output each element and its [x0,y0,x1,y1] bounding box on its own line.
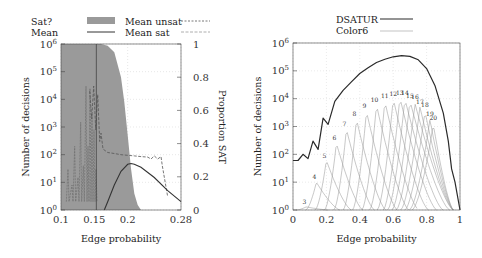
peak-label: 3 [302,198,306,205]
y-tick-label: 100 [272,204,289,216]
right-legend: DSATURColor6 [336,14,413,36]
peak-label: 7 [343,120,347,127]
right-chart: 3456789101112131415161718192010010110210… [252,14,463,244]
peak-label: 4 [312,173,316,180]
peak-label: 8 [353,110,357,117]
legend-swatch [87,17,115,24]
left-legend: Sat?MeanMean unsatMean sat [31,16,210,38]
y-right-tick-label: 0.2 [193,171,209,182]
color6-curve [296,207,328,210]
peak-label: 20 [429,114,437,121]
color6-curve [343,123,386,210]
x-tick-label: 0.2 [120,214,136,225]
y-tick-label: 106 [40,38,58,50]
legend-label: Color6 [336,25,368,36]
y-tick-label: 106 [272,37,290,49]
y-right-tick-label: 0 [193,205,199,216]
y-tick-label: 103 [272,120,289,132]
y-axis-label: Number of decisions [20,77,31,177]
x-tick-label: 0.6 [385,214,401,225]
y-tick-label: 105 [40,65,57,77]
peak-label: 9 [363,102,367,109]
x-tick-label: 0.8 [419,214,435,225]
left-chart: 10010110210310410510600.20.40.60.810.10.… [20,16,228,244]
x-tick-label: 0.28 [170,214,192,225]
y-tick-label: 102 [272,148,289,160]
peak-label: 10 [371,96,379,103]
x-tick-label: 0.4 [352,214,368,225]
x-tick-label: 1 [457,214,463,225]
peak-label: 18 [421,101,429,108]
y-tick-label: 104 [40,93,58,105]
legend-label: Mean [31,27,58,38]
y-tick-label: 101 [40,176,57,188]
x-tick-label: 0.2 [318,214,334,225]
x-tick-label: 0.1 [53,214,69,225]
y-right-tick-label: 0.6 [193,105,209,116]
color6-curve [306,183,340,210]
peak-label: 11 [381,92,389,99]
y-tick-label: 101 [272,176,289,188]
x-axis-label: Edge probability [81,233,162,244]
x-tick-label: 0.15 [83,214,105,225]
y-tick-label: 102 [40,148,57,160]
y-right-tick-label: 1 [193,39,199,50]
y-axis-label: Number of decisions [252,77,263,177]
peak-label: 5 [322,152,326,159]
y-right-tick-label: 0.8 [193,72,209,83]
x-tick-label: 0 [290,214,296,225]
y-right-axis-label: Proportion SAT [217,90,228,165]
chart-canvas: 10010110210310410510600.20.40.60.810.10.… [0,0,482,258]
peak-label: 6 [333,134,337,141]
x-axis-label: Edge probability [336,233,417,244]
y-right-tick-label: 0.4 [193,138,209,149]
legend-label: Mean sat [125,27,170,38]
legend-label: Mean unsat [125,16,182,27]
legend-label: DSATUR [336,14,379,25]
y-tick-label: 105 [272,64,289,76]
y-tick-label: 104 [272,92,290,104]
legend-label: Sat? [31,16,52,27]
y-tick-label: 103 [40,121,57,133]
